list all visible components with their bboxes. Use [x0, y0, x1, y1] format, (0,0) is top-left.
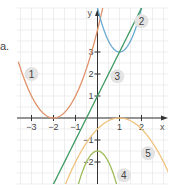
svg-text:5: 5 — [145, 148, 151, 159]
curve-label-1: 1 — [25, 67, 39, 81]
svg-text:1: 1 — [29, 69, 35, 80]
curve-label-5: 5 — [141, 146, 155, 160]
svg-text:4: 4 — [121, 170, 127, 181]
svg-text:−2: −2 — [48, 122, 58, 132]
svg-text:2: 2 — [88, 69, 93, 79]
svg-text:x: x — [160, 122, 165, 132]
svg-text:1: 1 — [117, 122, 122, 132]
svg-text:1: 1 — [88, 91, 93, 101]
svg-text:y: y — [88, 8, 93, 18]
svg-text:2: 2 — [139, 16, 145, 27]
svg-text:−3: −3 — [26, 122, 36, 132]
function-graph: xy−3−2−112−2−1123 12345 — [0, 0, 173, 189]
svg-text:3: 3 — [115, 71, 121, 82]
curve-label-4: 4 — [117, 168, 131, 182]
svg-text:−1: −1 — [70, 122, 80, 132]
curves — [18, 0, 169, 189]
curve-label-3: 3 — [110, 69, 124, 83]
curve-label-2: 2 — [135, 14, 149, 28]
